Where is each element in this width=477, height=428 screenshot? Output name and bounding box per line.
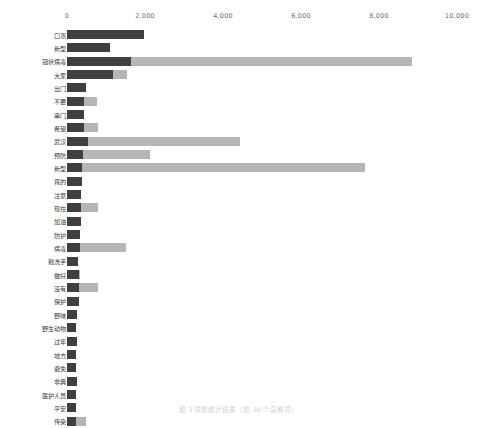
bar-foreground-series: [67, 363, 76, 372]
x-axis-tick-label: 10,000: [445, 12, 469, 20]
chart-row: 过年: [0, 335, 477, 348]
x-axis-tick-label: 2,000: [135, 12, 155, 20]
category-label: 加油: [6, 218, 66, 225]
chart-row: 避免: [0, 361, 477, 374]
bar-group: [67, 268, 457, 281]
chart-row: 医护人员: [0, 388, 477, 401]
bar-group: [67, 148, 457, 161]
chart-row: 病毒: [0, 241, 477, 254]
category-label: 勤洗手: [6, 258, 66, 265]
category-label: 武汉: [6, 138, 66, 145]
bar-foreground-series: [67, 390, 76, 399]
bar-group: [67, 255, 457, 268]
x-axis-tick-label: 6,000: [291, 12, 311, 20]
category-label: 避免: [6, 364, 66, 371]
bar-group: [67, 241, 457, 254]
bar-background-series: [67, 163, 365, 172]
x-axis: 02,0004,0006,0008,00010,000: [67, 12, 457, 26]
bar-foreground-series: [67, 270, 79, 279]
category-label: 保护: [6, 298, 66, 305]
chart-row: 冠状病毒: [0, 55, 477, 68]
bar-background-series: [67, 137, 240, 146]
chart-row: 串门: [0, 108, 477, 121]
chart-row: 出门: [0, 81, 477, 94]
bar-foreground-series: [67, 177, 82, 186]
bar-foreground-series: [67, 283, 79, 292]
bar-group: [67, 415, 457, 428]
bar-group: [67, 55, 457, 68]
category-label: 野味: [6, 311, 66, 318]
chart-row: 注意: [0, 188, 477, 201]
category-label: 没有: [6, 284, 66, 291]
category-label: 医护人员: [6, 391, 66, 398]
bar-foreground-series: [67, 257, 78, 266]
chart-row: 真的: [0, 175, 477, 188]
chart-row: 防护: [0, 228, 477, 241]
bar-foreground-series: [67, 243, 80, 252]
bar-foreground-series: [67, 83, 86, 92]
bar-group: [67, 215, 457, 228]
bar-foreground-series: [67, 323, 76, 332]
category-label: 新型: [6, 164, 66, 171]
bar-group: [67, 228, 457, 241]
category-label: 口罩: [6, 31, 66, 38]
chart-row: 非典: [0, 375, 477, 388]
bar-group: [67, 295, 457, 308]
category-label: 大家: [6, 71, 66, 78]
chart-row: 保护: [0, 295, 477, 308]
bar-group: [67, 388, 457, 401]
bar-foreground-series: [67, 30, 144, 39]
chart-row: 野味: [0, 308, 477, 321]
category-label: 传染: [6, 418, 66, 425]
bar-foreground-series: [67, 163, 82, 172]
chart-row: 新型: [0, 41, 477, 54]
category-label: 过年: [6, 338, 66, 345]
bar-group: [67, 348, 457, 361]
bar-foreground-series: [67, 57, 131, 66]
bar-group: [67, 135, 457, 148]
chart-row: 口罩: [0, 28, 477, 41]
bar-foreground-series: [67, 310, 77, 319]
chart-row: 勤洗手: [0, 255, 477, 268]
bar-group: [67, 201, 457, 214]
bar-foreground-series: [67, 217, 81, 226]
category-label: 非典: [6, 378, 66, 385]
bar-foreground-series: [67, 337, 77, 346]
chart-row: 不要: [0, 95, 477, 108]
figure-caption: 图 3 词频统计结果（前 30 个高频词）: [0, 404, 477, 414]
chart-row: 新型: [0, 161, 477, 174]
bar-foreground-series: [67, 123, 84, 132]
bar-foreground-series: [67, 43, 110, 52]
bar-group: [67, 68, 457, 81]
category-label: 串门: [6, 111, 66, 118]
bar-group: [67, 121, 457, 134]
bar-foreground-series: [67, 150, 83, 159]
category-label: 希望: [6, 124, 66, 131]
bar-foreground-series: [67, 297, 79, 306]
bar-group: [67, 361, 457, 374]
bar-foreground-series: [67, 70, 113, 79]
bar-group: [67, 175, 457, 188]
bar-foreground-series: [67, 350, 76, 359]
category-label: 防护: [6, 231, 66, 238]
category-label: 预防: [6, 151, 66, 158]
chart-row: 武汉: [0, 135, 477, 148]
chart-row: 传染: [0, 415, 477, 428]
bar-group: [67, 81, 457, 94]
category-label: 出门: [6, 84, 66, 91]
chart-row: 现在: [0, 201, 477, 214]
category-label: 野生动物: [6, 324, 66, 331]
chart-row: 加油: [0, 215, 477, 228]
chart-row: 地方: [0, 348, 477, 361]
bar-group: [67, 335, 457, 348]
bar-foreground-series: [67, 417, 76, 426]
bar-foreground-series: [67, 203, 81, 212]
category-label: 不要: [6, 98, 66, 105]
bar-group: [67, 108, 457, 121]
bar-foreground-series: [67, 110, 84, 119]
chart-row: 大家: [0, 68, 477, 81]
x-axis-tick-label: 4,000: [213, 12, 233, 20]
bar-group: [67, 188, 457, 201]
chart-row: 做好: [0, 268, 477, 281]
